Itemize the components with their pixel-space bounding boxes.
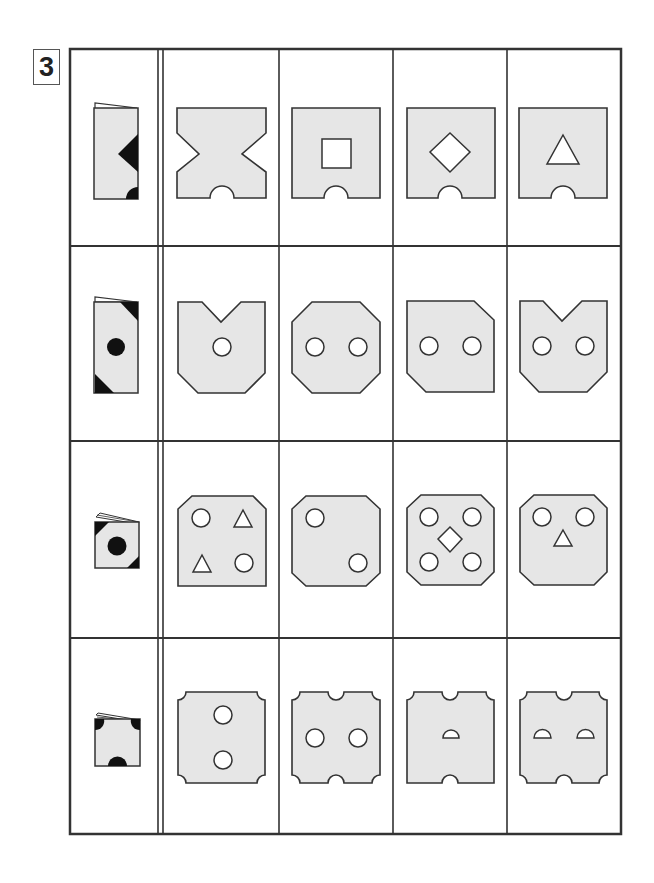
circle-hole-icon: [576, 337, 594, 355]
punch-circle-icon: [107, 338, 125, 356]
circle-hole-icon: [533, 508, 551, 526]
folded-paper-2: [94, 297, 138, 393]
option-1-a[interactable]: [177, 108, 266, 198]
circle-hole-icon: [576, 508, 594, 526]
folded-paper-3: [95, 513, 139, 568]
row-1: [94, 103, 607, 199]
circle-hole-icon: [213, 338, 231, 356]
option-3-d[interactable]: [520, 495, 607, 585]
row-4: [95, 692, 607, 783]
option-3-b[interactable]: [292, 496, 380, 586]
circle-hole-icon: [420, 508, 438, 526]
circle-hole-icon: [192, 509, 210, 527]
option-2-a[interactable]: [178, 302, 265, 393]
option-1-c[interactable]: [407, 108, 495, 198]
circle-hole-icon: [463, 508, 481, 526]
folded-paper-4: [95, 713, 140, 766]
circle-hole-icon: [235, 554, 253, 572]
option-1-b[interactable]: [292, 108, 380, 198]
puzzle-grid: [0, 0, 654, 883]
circle-hole-icon: [214, 751, 232, 769]
folded-paper-1: [94, 103, 138, 199]
circle-hole-icon: [420, 337, 438, 355]
circle-hole-icon: [306, 338, 324, 356]
option-4-a[interactable]: [178, 692, 265, 783]
circle-hole-icon: [420, 553, 438, 571]
option-2-b[interactable]: [292, 302, 380, 393]
circle-hole-icon: [349, 729, 367, 747]
circle-hole-icon: [306, 729, 324, 747]
row-2: [94, 297, 607, 393]
option-2-c[interactable]: [407, 301, 494, 392]
square-hole-icon: [322, 139, 351, 168]
option-2-d[interactable]: [520, 301, 607, 392]
punch-circle-icon: [108, 537, 127, 556]
circle-hole-icon: [306, 509, 324, 527]
circle-hole-icon: [214, 706, 232, 724]
option-1-d[interactable]: [519, 108, 607, 198]
row-3: [95, 495, 607, 586]
circle-hole-icon: [533, 337, 551, 355]
option-4-b[interactable]: [292, 692, 380, 783]
option-3-c[interactable]: [407, 495, 494, 585]
circle-hole-icon: [349, 338, 367, 356]
option-4-d[interactable]: [520, 692, 607, 783]
circle-hole-icon: [463, 337, 481, 355]
option-4-c[interactable]: [407, 692, 494, 783]
circle-hole-icon: [463, 553, 481, 571]
circle-hole-icon: [349, 554, 367, 572]
option-3-a[interactable]: [178, 496, 266, 586]
